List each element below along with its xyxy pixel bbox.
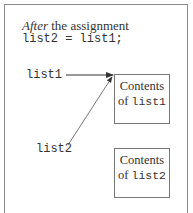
reference-arrows	[0, 0, 193, 213]
arrow-list2-to-box	[68, 77, 112, 145]
